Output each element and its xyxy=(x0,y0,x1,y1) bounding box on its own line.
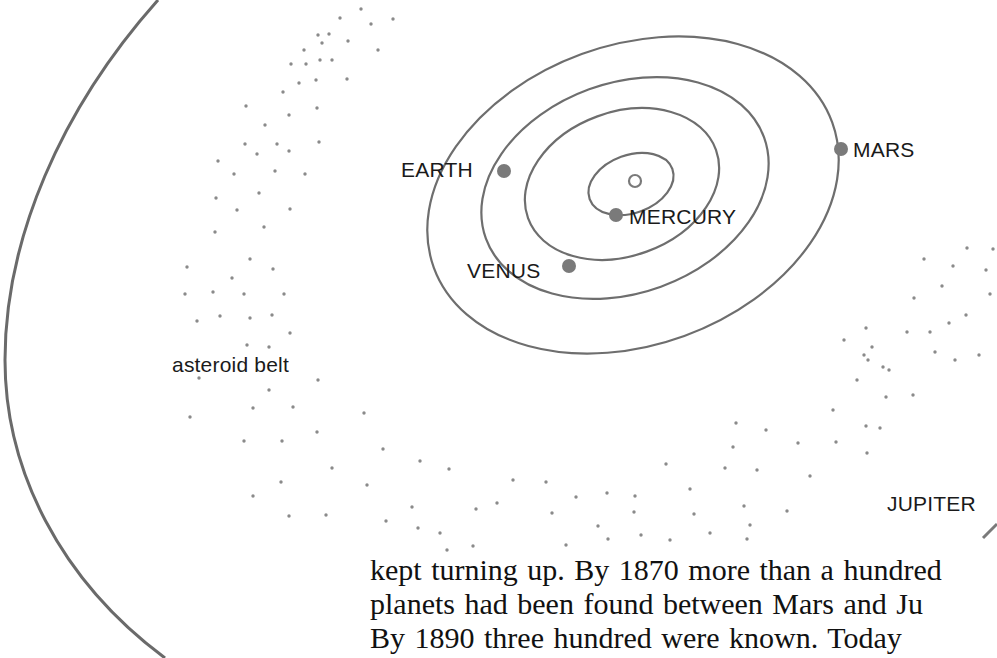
book-page: EARTH MARS MERCURY VENUS asteroid belt J… xyxy=(0,0,997,658)
venus-orbit xyxy=(503,82,740,286)
body-line-2: planets had been found between Mars and … xyxy=(370,587,997,621)
jupiter-label: JUPITER xyxy=(887,492,976,516)
sun-icon xyxy=(629,175,641,187)
venus-planet-icon xyxy=(562,259,576,273)
jupiter-orbit xyxy=(5,0,165,658)
mercury-planet-icon xyxy=(609,208,623,222)
mars-label: MARS xyxy=(853,138,914,162)
earth-planet-icon xyxy=(497,164,511,178)
mercury-label: MERCURY xyxy=(629,205,736,229)
venus-label: VENUS xyxy=(467,259,540,283)
body-line-1: kept turning up. By 1870 more than a hun… xyxy=(370,553,997,587)
body-line-3: By 1890 three hundred were known. Today xyxy=(370,621,997,655)
jupiter-orbit-segment xyxy=(983,524,997,538)
earth-orbit xyxy=(450,39,800,338)
body-paragraph: kept turning up. By 1870 more than a hun… xyxy=(370,553,997,655)
asteroid-belt-label: asteroid belt xyxy=(172,353,289,377)
earth-label: EARTH xyxy=(401,158,473,182)
mars-planet-icon xyxy=(834,142,848,156)
